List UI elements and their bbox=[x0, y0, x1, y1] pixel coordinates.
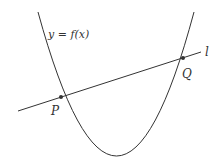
point-q bbox=[181, 56, 185, 60]
point-q-label: Q bbox=[182, 67, 192, 81]
point-p-label: P bbox=[50, 104, 60, 118]
point-p bbox=[59, 95, 63, 99]
line-label: l bbox=[205, 45, 209, 59]
parabola-line-diagram: y = f(x) l P Q bbox=[0, 0, 221, 157]
curve-label: y = f(x) bbox=[47, 28, 89, 41]
line-l bbox=[18, 52, 201, 111]
